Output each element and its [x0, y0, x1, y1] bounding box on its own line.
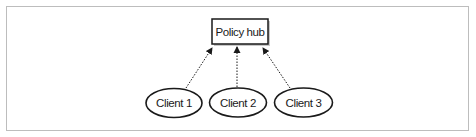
hub-label: Policy hub	[215, 26, 264, 38]
edges	[186, 47, 290, 88]
edge-client3-to-hub	[263, 48, 290, 88]
client-label: Client 3	[286, 97, 322, 109]
diagram-canvas: Policy hub Client 1 Client 2 Client 3	[0, 0, 476, 137]
client-node-1: Client 1	[146, 89, 202, 118]
edge-client1-to-hub	[186, 48, 212, 88]
client-label: Client 2	[220, 97, 256, 109]
client-label: Client 1	[156, 97, 192, 109]
client-node-2: Client 2	[210, 88, 267, 117]
client-node-3: Client 3	[275, 88, 333, 117]
policy-hub-node: Policy hub	[212, 19, 270, 46]
